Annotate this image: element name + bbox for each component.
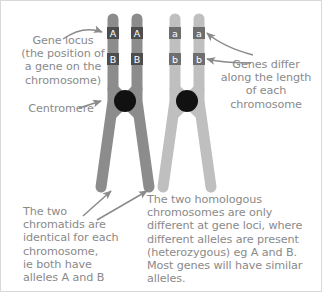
allele-label-right-inner-bottom: b [169, 54, 181, 65]
allele-label-right-outer-top: a [193, 28, 205, 39]
arrow-genes-differ-top [207, 33, 253, 55]
caption-genes-differ: Genes differ along the length of each ch… [213, 58, 319, 111]
chromatid-right-outer [199, 19, 211, 187]
allele-label-left-inner-top: A [131, 28, 143, 39]
centromere-left [114, 90, 136, 112]
centromere-right [176, 90, 198, 112]
chromosome-right [163, 19, 211, 187]
caption-centromere: Centromere [19, 102, 103, 115]
chromatid-left-inner [137, 19, 149, 187]
caption-chromatids: The two chromatids are identical for eac… [23, 205, 133, 284]
diagram-canvas: A B A B a b a b Gene locus (the position… [0, 0, 322, 292]
allele-boxes [107, 27, 205, 65]
caption-gene-locus: Gene locus (the position of a gene on th… [7, 34, 119, 87]
caption-homologous: The two homologous chromosomes are only … [147, 193, 319, 285]
allele-label-right-inner-top: a [169, 28, 181, 39]
chromatid-right-inner [163, 19, 175, 187]
allele-label-left-inner-bottom: B [131, 54, 143, 65]
allele-label-right-outer-bottom: b [193, 54, 205, 65]
